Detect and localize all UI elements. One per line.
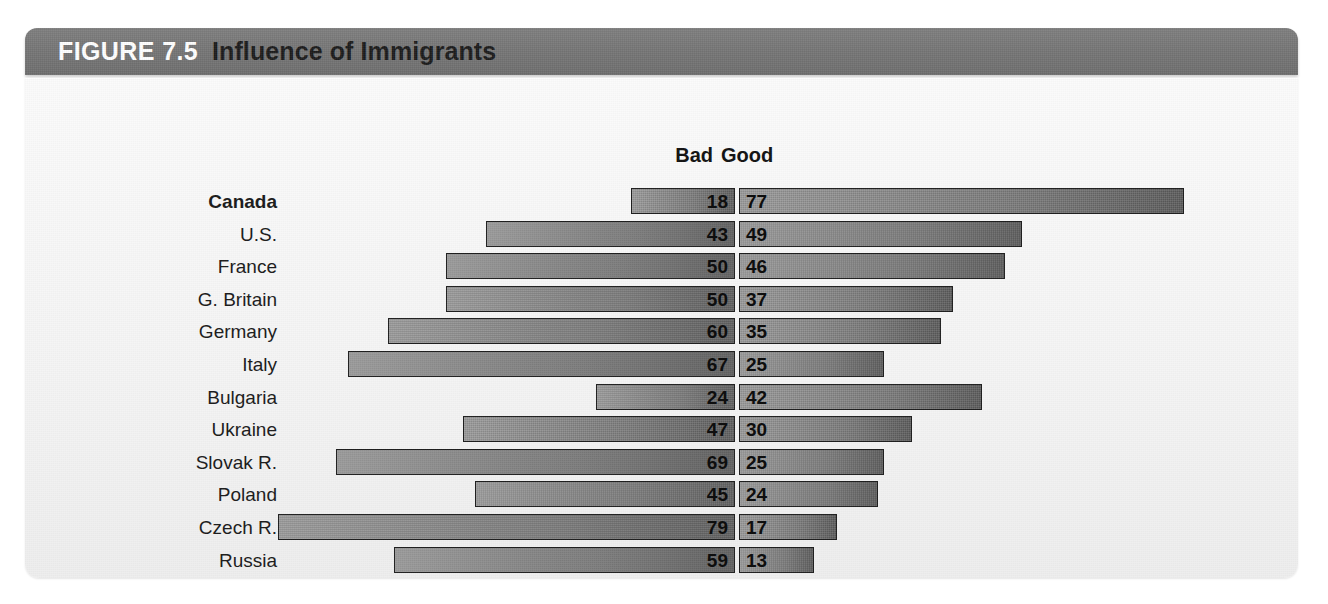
bar-value-good: 49 (746, 224, 767, 245)
bar-value-bad: 24 (707, 387, 728, 408)
bar-good: 49 (739, 221, 1022, 247)
category-label: Bulgaria (25, 387, 277, 409)
bar-value-bad: 69 (707, 452, 728, 473)
bar-bad: 79 (278, 514, 735, 540)
bar-bad: 18 (631, 188, 735, 214)
bar-value-bad: 79 (707, 517, 728, 538)
bar-bad: 50 (446, 253, 735, 279)
bar-value-good: 30 (746, 419, 767, 440)
chart-row: Ukraine4730 (25, 416, 1298, 443)
chart-row: Russia5913 (25, 547, 1298, 574)
bar-good: 25 (739, 449, 884, 475)
bar-value-bad: 47 (707, 419, 728, 440)
bar-good: 17 (739, 514, 837, 540)
figure-number: FIGURE 7.5 (58, 37, 198, 66)
bar-value-good: 35 (746, 321, 767, 342)
bar-good: 46 (739, 253, 1005, 279)
category-label: Czech R. (25, 517, 277, 539)
category-label: Italy (25, 354, 277, 376)
category-label: G. Britain (25, 289, 277, 311)
bar-good: 37 (739, 286, 953, 312)
chart-row: Slovak R.6925 (25, 449, 1298, 476)
bar-good: 24 (739, 481, 878, 507)
bar-value-bad: 45 (707, 484, 728, 505)
bar-bad: 43 (486, 221, 735, 247)
bar-good: 30 (739, 416, 912, 442)
chart-row: Canada1877 (25, 188, 1298, 215)
bar-good: 42 (739, 384, 982, 410)
chart-panel: Bad Good Canada1877U.S.4349France5046G. … (25, 78, 1298, 578)
figure-card: FIGURE 7.5 Influence of Immigrants Bad G… (25, 28, 1298, 578)
bar-bad: 59 (394, 547, 735, 573)
bar-bad: 24 (596, 384, 735, 410)
category-label: France (25, 256, 277, 278)
bar-value-bad: 18 (707, 191, 728, 212)
bar-bad: 69 (336, 449, 735, 475)
bar-bad: 50 (446, 286, 735, 312)
figure-title-band: FIGURE 7.5 Influence of Immigrants (25, 28, 1298, 75)
category-label: U.S. (25, 224, 277, 246)
bar-value-good: 46 (746, 256, 767, 277)
bar-value-good: 77 (746, 191, 767, 212)
chart-row: Czech R.7917 (25, 514, 1298, 541)
chart-row: Poland4524 (25, 481, 1298, 508)
chart-row: Bulgaria2442 (25, 384, 1298, 411)
bar-value-bad: 59 (707, 550, 728, 571)
chart-rows: Canada1877U.S.4349France5046G. Britain50… (25, 78, 1298, 578)
bar-value-good: 13 (746, 550, 767, 571)
bar-value-good: 17 (746, 517, 767, 538)
bar-bad: 60 (388, 318, 735, 344)
category-label: Slovak R. (25, 452, 277, 474)
chart-row: Germany6035 (25, 318, 1298, 345)
bar-value-bad: 50 (707, 256, 728, 277)
chart-row: U.S.4349 (25, 221, 1298, 248)
category-label: Russia (25, 550, 277, 572)
chart-row: G. Britain5037 (25, 286, 1298, 313)
bar-good: 13 (739, 547, 814, 573)
bar-value-good: 25 (746, 354, 767, 375)
category-label: Germany (25, 321, 277, 343)
bar-bad: 45 (475, 481, 735, 507)
bar-value-good: 24 (746, 484, 767, 505)
chart-row: France5046 (25, 253, 1298, 280)
bar-bad: 67 (348, 351, 735, 377)
bar-good: 35 (739, 318, 941, 344)
bar-value-good: 25 (746, 452, 767, 473)
bar-bad: 47 (463, 416, 735, 442)
bar-value-bad: 67 (707, 354, 728, 375)
bar-good: 77 (739, 188, 1184, 214)
bar-value-bad: 43 (707, 224, 728, 245)
chart-row: Italy6725 (25, 351, 1298, 378)
bar-value-bad: 60 (707, 321, 728, 342)
bar-good: 25 (739, 351, 884, 377)
category-label: Poland (25, 484, 277, 506)
page-title: Influence of Immigrants (212, 37, 496, 66)
bar-value-good: 42 (746, 387, 767, 408)
bar-value-good: 37 (746, 289, 767, 310)
bar-value-bad: 50 (707, 289, 728, 310)
category-label: Ukraine (25, 419, 277, 441)
category-label: Canada (25, 191, 277, 213)
figure-root: FIGURE 7.5 Influence of Immigrants Bad G… (0, 0, 1328, 604)
